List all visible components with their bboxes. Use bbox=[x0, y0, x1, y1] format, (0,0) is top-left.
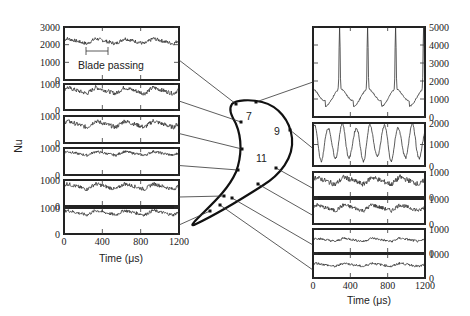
panel-frame bbox=[64, 84, 179, 110]
y-tick-label: 5000 bbox=[429, 22, 449, 33]
panel-frame bbox=[64, 27, 179, 80]
panel-frame bbox=[313, 172, 425, 197]
data-trace bbox=[64, 85, 179, 95]
leader-line bbox=[276, 168, 313, 189]
data-trace bbox=[64, 182, 179, 191]
right-panel-6: 0100004008001200 bbox=[311, 249, 450, 292]
panel-frame bbox=[313, 27, 425, 117]
leader-line bbox=[290, 130, 313, 149]
leader-line bbox=[179, 60, 236, 104]
left-panel-1: 0100020003000 bbox=[40, 22, 179, 86]
leader-line bbox=[179, 196, 224, 197]
y-tick-label: 3000 bbox=[429, 58, 449, 69]
y-axis-label: Nu bbox=[12, 139, 24, 153]
x-tick-label: 400 bbox=[95, 236, 110, 247]
y-tick-label: 2000 bbox=[429, 76, 449, 87]
right-panel-2: 010002000 bbox=[313, 118, 449, 172]
data-trace bbox=[313, 27, 425, 107]
blade-label-7: 7 bbox=[246, 110, 252, 122]
leader-line bbox=[179, 134, 242, 150]
data-trace bbox=[64, 119, 179, 129]
x-tick-label: 0 bbox=[62, 236, 67, 247]
x-tick-label: 800 bbox=[133, 236, 148, 247]
leader-line bbox=[256, 82, 313, 102]
data-trace bbox=[313, 237, 425, 242]
panel-frame bbox=[313, 199, 425, 224]
x-tick-label: 400 bbox=[343, 280, 358, 291]
data-trace bbox=[313, 123, 425, 162]
blade-passing-annotation: Blade passing bbox=[78, 59, 144, 71]
blade-label-11: 11 bbox=[256, 152, 267, 164]
data-trace bbox=[64, 150, 179, 156]
x-tick-label: 1200 bbox=[415, 280, 435, 291]
blade-label-9: 9 bbox=[274, 125, 280, 137]
y-tick-label: 1000 bbox=[429, 194, 449, 205]
panel-frame bbox=[313, 254, 425, 278]
heat-transfer-figure: 0100020003000010000100001000010000100004… bbox=[0, 0, 470, 316]
right-panel-1: 010002000300040005000 bbox=[313, 22, 449, 123]
leader-line bbox=[179, 166, 238, 171]
y-tick-label: 1000 bbox=[429, 94, 449, 105]
leader-line bbox=[220, 205, 313, 270]
y-tick-label: 1000 bbox=[40, 203, 60, 214]
left-panel-2: 01000 bbox=[40, 79, 179, 116]
x-axis-label-left: Time (μs) bbox=[99, 252, 143, 264]
left-panel-3: 01000 bbox=[40, 111, 179, 149]
data-trace bbox=[64, 37, 179, 45]
y-tick-label: 3000 bbox=[40, 22, 60, 33]
data-trace bbox=[64, 209, 179, 216]
blade-profile bbox=[179, 60, 313, 270]
y-tick-label: 1000 bbox=[40, 143, 60, 154]
left-panels: 0100020003000010000100001000010000100004… bbox=[40, 22, 189, 248]
x-axis-label-right: Time (μs) bbox=[347, 294, 391, 306]
leader-line bbox=[258, 184, 313, 216]
panel-frame bbox=[64, 116, 179, 143]
y-tick-label: 0 bbox=[55, 229, 60, 240]
y-tick-label: 1000 bbox=[40, 111, 60, 122]
x-tick-label: 0 bbox=[311, 280, 316, 291]
y-tick-label: 1000 bbox=[429, 167, 449, 178]
x-tick-label: 800 bbox=[380, 280, 395, 291]
panel-frame bbox=[64, 180, 179, 206]
y-tick-label: 1000 bbox=[40, 57, 60, 68]
y-tick-label: 2000 bbox=[429, 118, 449, 129]
left-panel-5: 01000 bbox=[40, 175, 179, 212]
x-tick-label: 1200 bbox=[169, 236, 189, 247]
data-trace bbox=[313, 175, 425, 187]
left-panel-4: 01000 bbox=[40, 143, 179, 181]
y-tick-label: 1000 bbox=[429, 139, 449, 150]
y-tick-label: 2000 bbox=[40, 39, 60, 50]
y-tick-label: 1000 bbox=[40, 79, 60, 90]
blade-outline bbox=[192, 100, 292, 225]
right-panels: 0100020003000400050000100020000100001000… bbox=[311, 22, 450, 292]
data-trace bbox=[313, 262, 425, 267]
left-panel-6: 0100004008001200 bbox=[40, 203, 189, 248]
y-tick-label: 1000 bbox=[40, 175, 60, 186]
y-tick-label: 1000 bbox=[429, 249, 449, 260]
y-tick-label: 1000 bbox=[429, 224, 449, 235]
data-trace bbox=[313, 203, 425, 212]
y-tick-label: 4000 bbox=[429, 40, 449, 51]
